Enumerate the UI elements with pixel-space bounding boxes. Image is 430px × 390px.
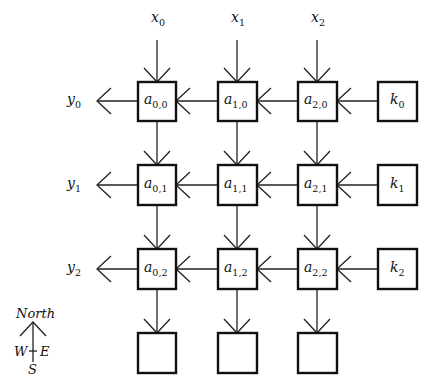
compass-north-label: North: [15, 306, 55, 321]
systolic-array-diagram: x0 x1 x2 y0 y1 y2 a0,0 a1,0 a2,0 k0 a0,1…: [0, 0, 430, 390]
compass-west-label: W: [14, 344, 29, 359]
empty-cell-0: [138, 333, 176, 373]
empty-cell-1: [218, 333, 257, 373]
input-label-x0: x0: [151, 9, 165, 28]
output-label-y1: y1: [66, 175, 81, 194]
compass-rose: North W E S: [14, 306, 55, 377]
input-label-x1: x1: [231, 9, 245, 28]
input-labels: x0 x1 x2: [151, 9, 325, 28]
cell-row-3-empty: [138, 333, 337, 373]
output-label-y2: y2: [66, 259, 81, 278]
output-labels: y0 y1 y2: [66, 91, 81, 278]
empty-cell-2: [298, 333, 337, 373]
compass-east-label: E: [39, 344, 50, 359]
input-label-x2: x2: [311, 9, 325, 28]
output-label-y0: y0: [66, 91, 81, 110]
compass-south-label: S: [28, 362, 37, 377]
